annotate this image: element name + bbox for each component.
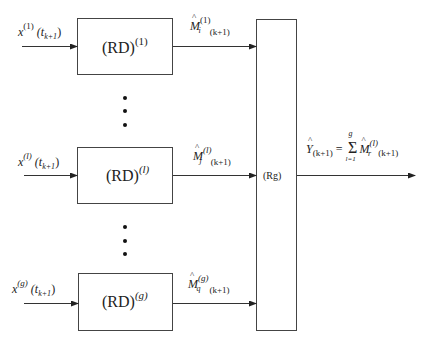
ellipsis-dot — [123, 225, 127, 229]
final-output-label: Y(k+1) = g Σ l=1 M(l)r (k+1) — [306, 140, 398, 156]
input-label-g: x(g) (tk+1) — [12, 283, 55, 295]
input-label-l: x(l) (tk+1) — [18, 156, 59, 168]
rd-block-g-label: (RD)(g) — [102, 294, 148, 310]
rd-block-1-label: (RD)(1) — [102, 40, 148, 56]
rg-block-label: (Rg) — [263, 171, 281, 181]
ellipsis-dot — [123, 96, 127, 100]
ellipsis-dot — [123, 239, 127, 243]
ellipsis-dot — [123, 109, 127, 113]
output-label-1: M(1)i (k+1) — [190, 20, 230, 32]
output-label-g: M(g)q (k+1) — [188, 278, 230, 290]
diagram-canvas: x(1) (tk+1) (RD)(1) M(1)i (k+1) x(l) (tk… — [0, 0, 428, 338]
ellipsis-dot — [123, 123, 127, 127]
ellipsis-dot — [123, 252, 127, 256]
output-label-l: M(l)j (k+1) — [193, 150, 231, 162]
input-label-1: x(1) (tk+1) — [18, 26, 61, 38]
rd-block-l-label: (RD)(l) — [106, 168, 149, 184]
